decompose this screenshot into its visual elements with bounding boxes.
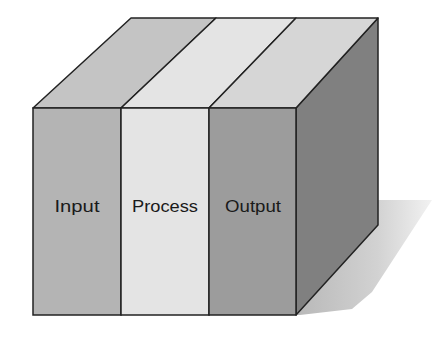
label-output: Output	[225, 197, 281, 216]
input-process-output-cube-diagram: Input Process Output	[0, 0, 434, 340]
label-process: Process	[132, 197, 198, 216]
label-input: Input	[55, 197, 100, 216]
